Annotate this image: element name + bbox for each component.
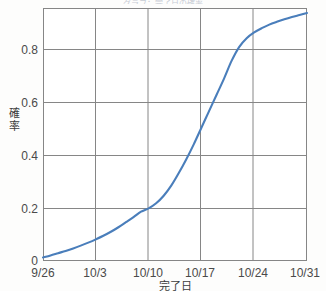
y-tick-0.2: 0.2 xyxy=(21,202,38,216)
x-tick-10-3: 10/3 xyxy=(83,266,107,280)
x-tick-9-26: 9/26 xyxy=(31,266,55,280)
x-tick-labels: 9/26 10/3 10/10 10/17 10/24 10/31 xyxy=(31,266,320,280)
chart-svg: 0.8 0.6 0.4 0.2 0 9/26 10/3 10/10 10/17 … xyxy=(0,0,326,291)
x-tick-10-24: 10/24 xyxy=(238,266,268,280)
x-tick-10-17: 10/17 xyxy=(185,266,215,280)
y-tick-0.8: 0.8 xyxy=(21,43,38,57)
y-tick-labels: 0.8 0.6 0.4 0.2 0 xyxy=(21,43,38,268)
clipped-header-text: グラフ：完了日の確率 xyxy=(78,0,248,4)
chart-container: グラフ：完了日の確率 0.8 0.6 xyxy=(0,0,326,291)
y-axis-title-char-2: 率 xyxy=(9,119,20,132)
y-tick-0.4: 0.4 xyxy=(21,149,38,163)
x-axis-title: 完了日 xyxy=(159,279,192,291)
y-tick-0.6: 0.6 xyxy=(21,96,38,110)
x-tick-10-31: 10/31 xyxy=(290,266,320,280)
y-axis-title-char-1: 確 xyxy=(9,106,20,119)
x-tick-10-10: 10/10 xyxy=(133,266,163,280)
plot-background xyxy=(43,8,307,260)
